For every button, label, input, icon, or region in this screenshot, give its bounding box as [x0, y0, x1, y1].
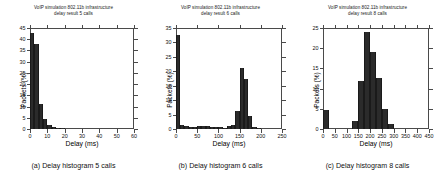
y-axis-tick-label: 20	[313, 45, 319, 51]
y-axis-tick	[282, 42, 286, 43]
x-axis-tick-label: 50	[194, 133, 200, 139]
chart-title-line2: delay result 5 calls	[0, 11, 147, 17]
x-axis-tick	[176, 25, 177, 29]
x-axis-tick	[370, 25, 371, 29]
plot-area-b: 05101520253035050100150200250	[176, 28, 282, 129]
y-axis-tick	[134, 62, 138, 63]
y-axis-tick	[320, 109, 324, 110]
x-axis-tick-label: 150	[235, 133, 244, 139]
y-axis-tick	[282, 71, 286, 72]
x-axis-tick	[335, 25, 336, 29]
y-axis-tick	[320, 48, 324, 49]
x-axis-tick	[282, 25, 283, 29]
y-axis-tick	[173, 115, 177, 116]
y-axis-tick	[134, 95, 138, 96]
y-axis-tick	[27, 28, 31, 29]
y-axis-tick	[320, 28, 324, 29]
y-axis-tick-label: 15	[166, 83, 172, 89]
y-axis-tick-label: 45	[20, 25, 26, 31]
y-axis-tick-label: 5	[316, 106, 319, 112]
x-axis-title: Delay (ms)	[30, 140, 134, 147]
x-axis-tick	[218, 25, 219, 29]
y-axis-tick-label: 5	[169, 112, 172, 118]
x-axis-tick-label: 50	[332, 133, 338, 139]
y-axis-tick	[282, 57, 286, 58]
chart-title-c: VoIP simulation 802.11b infrastructure d…	[294, 5, 441, 16]
plot-area-a: 0510152025303540450102030405060	[30, 28, 134, 129]
y-axis-tick	[282, 115, 286, 116]
x-axis-tick	[197, 25, 198, 29]
bars-b	[176, 28, 282, 129]
y-axis-tick-label: 25	[166, 54, 172, 60]
x-axis-tick	[417, 25, 418, 29]
y-axis-tick-label: 0	[169, 126, 172, 132]
x-axis-tick-label: 350	[401, 133, 410, 139]
y-axis-tick-label: 25	[20, 70, 26, 76]
x-axis-tick	[405, 25, 406, 29]
histogram-bar	[176, 35, 180, 129]
y-axis-tick-label: 25	[313, 25, 319, 31]
y-axis-tick	[134, 84, 138, 85]
x-axis-tick-label: 0	[322, 133, 325, 139]
y-axis-tick	[429, 68, 433, 69]
x-axis-tick	[347, 25, 348, 29]
chart-title-line2: delay result 6 calls	[147, 11, 294, 17]
x-axis-tick-label: 100	[342, 133, 351, 139]
y-axis-tick	[282, 100, 286, 101]
y-axis-tick-label: 15	[313, 65, 319, 71]
chart-panel-b: VoIP simulation 802.11b infrastructure d…	[147, 0, 294, 180]
x-axis-tick	[30, 25, 31, 29]
x-axis-tick	[429, 25, 430, 29]
y-axis-tick	[27, 62, 31, 63]
x-axis-tick	[117, 25, 118, 29]
x-axis-tick-label: 10	[44, 133, 50, 139]
y-axis-tick-label: 20	[166, 68, 172, 74]
chart-title-line2: delay result 8 calls	[294, 11, 441, 17]
y-axis-tick-label: 0	[23, 126, 26, 132]
y-axis-tick	[173, 28, 177, 29]
x-axis-tick	[394, 25, 395, 29]
x-axis-tick	[65, 25, 66, 29]
bars-c	[323, 28, 429, 129]
histogram-bar	[323, 110, 329, 129]
y-axis-tick	[320, 89, 324, 90]
x-axis-tick	[82, 25, 83, 29]
y-axis-tick-label: 35	[166, 25, 172, 31]
x-axis-tick-label: 450	[425, 133, 434, 139]
y-axis-tick	[320, 68, 324, 69]
panel-caption-a: (a) Delay histogram 5 calls	[0, 162, 147, 170]
x-axis-tick-label: 20	[62, 133, 68, 139]
panel-caption-b: (b) Delay histogram 6 calls	[147, 162, 294, 170]
y-axis-tick	[134, 118, 138, 119]
x-axis-tick	[47, 25, 48, 29]
x-axis-tick	[358, 25, 359, 29]
x-axis-tick-label: 250	[377, 133, 386, 139]
x-axis-tick-label: 200	[256, 133, 265, 139]
y-axis-tick	[173, 100, 177, 101]
y-axis-tick	[134, 39, 138, 40]
x-axis-tick-label: 50	[114, 133, 120, 139]
plot-area-c: 0510152025050100150200250300350400450	[323, 28, 429, 129]
y-axis-tick-label: 5	[23, 115, 26, 121]
y-axis-tick	[27, 50, 31, 51]
y-axis-tick-label: 10	[166, 97, 172, 103]
y-axis-tick	[27, 107, 31, 108]
y-axis-tick	[173, 57, 177, 58]
x-axis-tick	[323, 25, 324, 29]
y-axis-tick	[282, 86, 286, 87]
y-axis-tick-label: 10	[20, 104, 26, 110]
x-axis-tick-label: 100	[214, 133, 223, 139]
y-axis-tick	[429, 28, 433, 29]
chart-title-a: VoIP simulation 802.11b infrastructure d…	[0, 5, 147, 16]
x-axis-tick-label: 0	[175, 133, 178, 139]
y-axis-tick	[173, 42, 177, 43]
x-axis-tick	[240, 25, 241, 29]
y-axis-tick	[134, 73, 138, 74]
y-axis-tick	[282, 28, 286, 29]
x-axis-tick-label: 30	[79, 133, 85, 139]
y-axis-tick	[429, 48, 433, 49]
x-axis-tick-label: 0	[29, 133, 32, 139]
y-axis-tick	[27, 118, 31, 119]
y-axis-tick	[134, 107, 138, 108]
bars-a	[30, 28, 134, 129]
